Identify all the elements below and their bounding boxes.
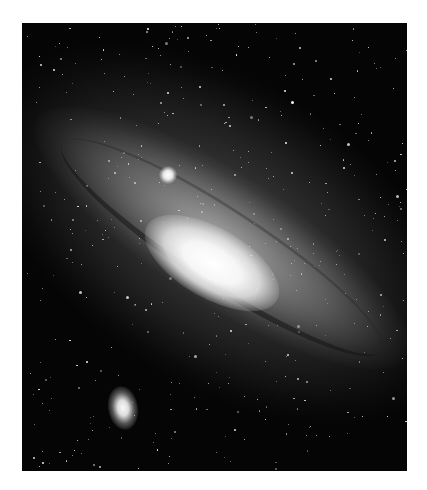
star — [376, 68, 377, 69]
star — [354, 97, 355, 98]
star — [187, 37, 189, 39]
star — [334, 93, 335, 94]
star — [406, 50, 407, 51]
star — [406, 189, 407, 190]
star — [293, 63, 295, 65]
star — [138, 468, 139, 469]
star — [42, 462, 44, 464]
companion-galaxy-m32 — [159, 166, 177, 184]
star — [299, 47, 301, 49]
star — [51, 398, 52, 399]
galaxy-photo: Spiral galaxy seen at an oblique angle w… — [22, 23, 407, 471]
star — [153, 442, 154, 443]
star — [177, 39, 178, 40]
star — [90, 423, 91, 424]
star — [206, 35, 207, 36]
star — [286, 433, 287, 434]
star — [118, 375, 119, 376]
star — [395, 58, 396, 59]
star — [86, 361, 88, 363]
star — [224, 457, 225, 458]
star — [284, 90, 286, 92]
star — [387, 416, 388, 417]
star — [309, 427, 310, 428]
star — [76, 365, 77, 366]
star — [307, 450, 308, 451]
star — [402, 143, 403, 144]
star — [27, 273, 28, 274]
star — [313, 95, 314, 96]
star — [169, 456, 170, 457]
star — [237, 411, 239, 413]
star — [70, 28, 71, 29]
star — [147, 28, 149, 30]
star — [139, 389, 140, 390]
star — [168, 463, 169, 464]
star — [216, 452, 217, 453]
star — [395, 170, 396, 171]
star — [99, 37, 100, 38]
star — [248, 47, 249, 48]
star — [196, 408, 197, 409]
star — [405, 421, 406, 422]
star — [109, 427, 110, 428]
star — [358, 123, 359, 124]
star — [218, 24, 219, 25]
star — [400, 154, 401, 155]
star — [34, 424, 35, 425]
star — [42, 451, 43, 452]
star — [302, 79, 303, 80]
star — [181, 26, 182, 27]
star — [255, 24, 256, 25]
star — [81, 453, 82, 454]
star — [157, 449, 158, 450]
star — [165, 42, 168, 45]
star — [188, 51, 189, 52]
star — [45, 379, 47, 381]
star — [90, 417, 91, 418]
star — [169, 38, 170, 39]
star — [347, 433, 348, 434]
star — [100, 370, 102, 372]
star — [230, 461, 231, 462]
star — [171, 382, 172, 383]
star — [393, 88, 394, 89]
star — [216, 28, 217, 29]
star — [175, 26, 176, 27]
star — [359, 52, 360, 53]
star — [55, 339, 56, 340]
star — [288, 424, 289, 425]
star — [174, 431, 176, 433]
star — [74, 450, 75, 451]
star — [275, 468, 277, 470]
star — [40, 362, 41, 363]
star — [339, 124, 340, 125]
star — [171, 438, 172, 439]
star — [38, 389, 39, 390]
star — [33, 394, 34, 395]
star — [194, 397, 195, 398]
star — [55, 46, 56, 47]
star — [394, 160, 396, 162]
star — [59, 43, 60, 44]
star — [275, 462, 276, 463]
star — [353, 28, 354, 29]
star — [50, 377, 51, 378]
star — [49, 463, 50, 464]
star — [72, 455, 73, 456]
star — [111, 347, 112, 348]
star — [88, 439, 89, 440]
star — [155, 433, 156, 434]
star — [234, 429, 236, 431]
star — [315, 60, 317, 62]
star — [219, 28, 220, 29]
star — [39, 466, 40, 467]
star — [27, 36, 28, 37]
star — [206, 409, 207, 410]
star — [30, 373, 31, 374]
star — [49, 410, 50, 411]
star — [66, 460, 67, 461]
star — [238, 46, 239, 47]
star — [170, 409, 171, 410]
star — [368, 47, 369, 48]
